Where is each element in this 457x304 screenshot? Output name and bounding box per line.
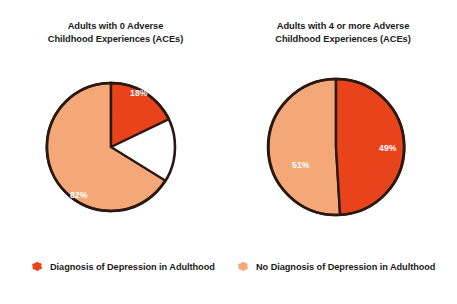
- legend-label-no-depression: No Diagnosis of Depression in Adulthood: [256, 262, 435, 272]
- blob-marker-icon: [237, 261, 249, 273]
- pie-slice-no-depression: [268, 79, 340, 215]
- chart-title-line-2: Childhood Experiences (ACEs): [233, 33, 453, 46]
- chart-title-line-2: Childhood Experiences (ACEs): [8, 33, 223, 46]
- legend-label-depression: Diagnosis of Depression in Adulthood: [50, 262, 215, 272]
- chart-panel-aces-4-or-more: Adults with 4 or more Adverse Childhood …: [233, 0, 453, 250]
- chart-title-aces-4-or-more: Adults with 4 or more Adverse Childhood …: [233, 20, 453, 46]
- pie-chart-figure: Adults with 0 Adverse Childhood Experien…: [0, 0, 457, 304]
- chart-title-line-1: Adults with 4 or more Adverse: [233, 20, 453, 33]
- pie-slice-depression: [336, 79, 404, 215]
- blob-marker-icon: [31, 261, 43, 273]
- pie-slice-depression: [111, 83, 169, 147]
- legend-item-depression: Diagnosis of Depression in Adulthood: [31, 258, 215, 276]
- legend-item-no-depression: No Diagnosis of Depression in Adulthood: [237, 258, 435, 276]
- chart-panel-aces-0: Adults with 0 Adverse Childhood Experien…: [8, 0, 223, 250]
- chart-title-line-1: Adults with 0 Adverse: [8, 20, 223, 33]
- chart-title-aces-0: Adults with 0 Adverse Childhood Experien…: [8, 20, 223, 46]
- chart-legend: Diagnosis of Depression in Adulthood No …: [0, 258, 457, 282]
- pie-aces-0: [22, 58, 200, 236]
- pie-aces-4-or-more: [243, 54, 429, 240]
